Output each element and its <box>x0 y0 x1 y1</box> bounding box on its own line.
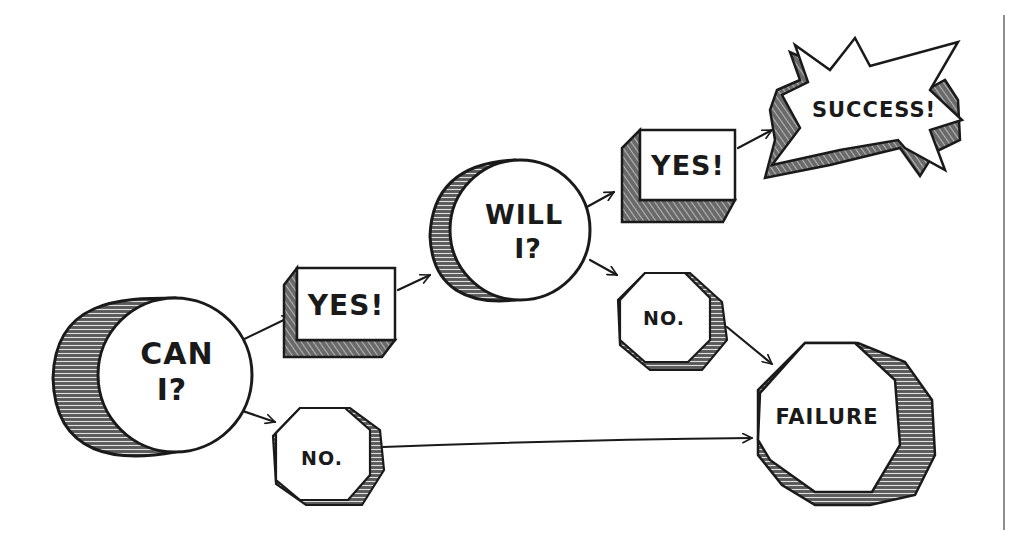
flowchart-canvas: CAN I? YES! NO. WILL I? YES! NO. SUCCESS… <box>0 0 1014 541</box>
failure-label: FAILURE <box>775 405 878 429</box>
cylinder-face <box>450 160 590 300</box>
edge-will-no2 <box>590 260 617 275</box>
node-can-i: CAN I? <box>53 298 252 456</box>
edge-yes1-will <box>398 275 430 290</box>
yes-2-label: YES! <box>650 150 725 181</box>
node-success: SUCCESS! <box>765 38 962 178</box>
no-1-label: NO. <box>301 447 343 469</box>
edge-yes2-success <box>738 130 772 148</box>
node-no-2: NO. <box>618 273 727 370</box>
will-i-label-line2: I? <box>514 233 542 264</box>
node-yes-1: YES! <box>284 268 395 357</box>
can-i-label-line1: CAN <box>140 336 213 371</box>
node-yes-2: YES! <box>622 130 735 222</box>
success-label: SUCCESS! <box>812 98 936 122</box>
will-i-label-line1: WILL <box>485 199 563 230</box>
no-2-label: NO. <box>643 307 685 329</box>
edge-will-yes2 <box>585 192 614 208</box>
node-will-i: WILL I? <box>430 160 590 301</box>
yes-1-label: YES! <box>307 289 384 322</box>
edge-no2-failure <box>727 327 772 364</box>
node-no-1: NO. <box>273 408 384 505</box>
edge-no1-failure <box>383 438 752 447</box>
can-i-label-line2: I? <box>157 372 188 407</box>
node-failure: FAILURE <box>758 343 935 505</box>
